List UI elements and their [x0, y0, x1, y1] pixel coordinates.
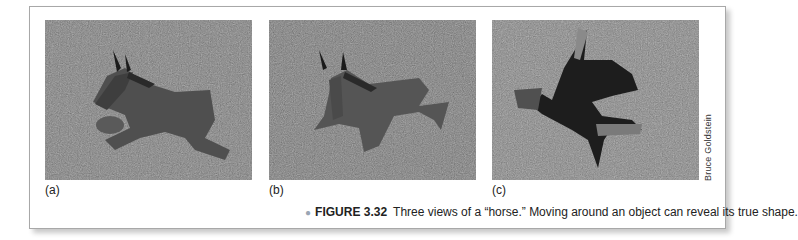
figure-caption: ●FIGURE 3.32Three views of a “horse.” Mo… [305, 205, 798, 219]
photo-panel-b [269, 20, 476, 180]
photo-panel-c [492, 20, 699, 180]
horse-side-view-image [45, 20, 252, 180]
photo-panel-a [45, 20, 252, 180]
photo-credit: Bruce Goldstein [703, 114, 713, 181]
panel-label-c: (c) [492, 183, 506, 197]
caption-text: Three views of a “horse.” Moving around … [393, 205, 798, 219]
bullet-icon: ● [305, 207, 311, 218]
horse-front-view-image [492, 20, 699, 180]
panel-label-b: (b) [269, 183, 284, 197]
figure-number: FIGURE 3.32 [315, 205, 387, 219]
panel-label-a: (a) [45, 183, 60, 197]
horse-angled-view-image [269, 20, 476, 180]
